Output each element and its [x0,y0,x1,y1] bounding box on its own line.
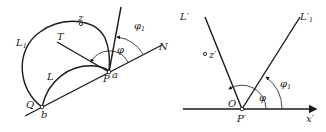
conformal-mapping-diagram: L1 L z T N φ φ1 P a Q b L′ L′1 z′ O P′ φ… [0,0,326,132]
label-Q: Q [26,99,34,110]
label-L-prime: L′ [179,11,190,22]
label-N: N [158,41,169,52]
label-L1: L1 [15,37,27,50]
label-b: b [41,109,47,120]
label-phi: φ [117,44,124,55]
label-a: a [112,69,118,80]
label-z-prime: z′ [208,49,217,60]
label-O: O [228,98,236,109]
label-phi-prime: φ [259,92,266,103]
label-P-prime: P′ [236,113,247,124]
label-phi1-prime: φ1 [280,78,291,91]
ray-L1-prime [242,17,300,109]
label-L: L [46,71,54,82]
label-P: P [102,73,110,84]
left-figure: L1 L z T N φ φ1 P a Q b [15,7,169,120]
tangent-L1 [109,7,121,72]
tangent-T [57,42,109,72]
label-x-prime: x′ [306,113,315,124]
point-P-prime [240,107,244,111]
point-z-prime [203,52,206,55]
label-T: T [57,31,65,42]
label-L1-prime: L′1 [299,11,313,24]
line-N [25,45,162,116]
label-phi1: φ1 [134,20,145,33]
label-z: z [77,12,84,23]
right-figure: L′ L′1 z′ O P′ φ φ1 x′ [179,11,316,124]
ray-L-prime [205,17,242,109]
